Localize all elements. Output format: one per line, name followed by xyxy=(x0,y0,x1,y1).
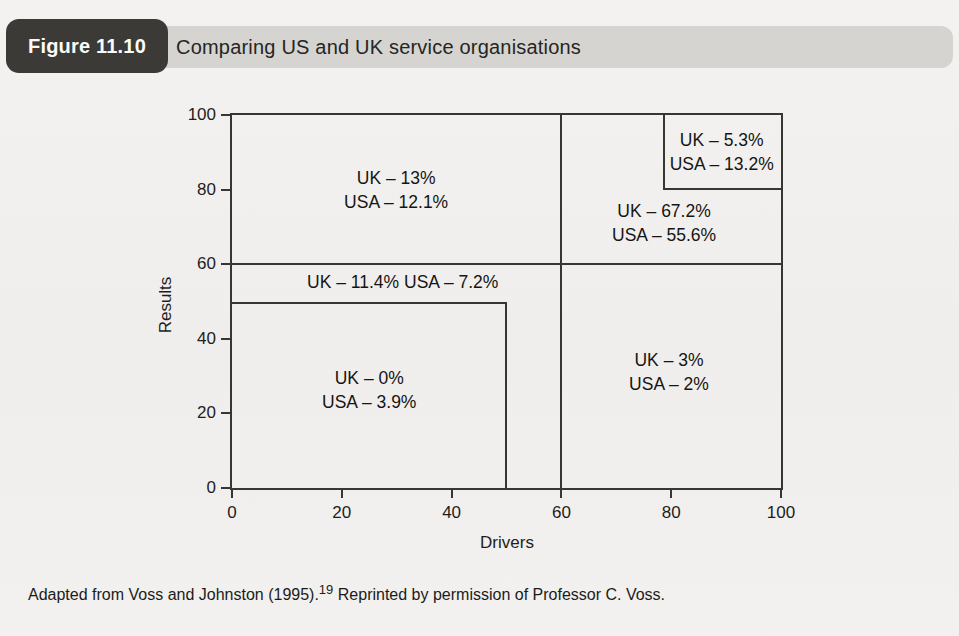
tick-label: 60 xyxy=(531,503,591,523)
region-uk-value: UK – 13% xyxy=(344,166,448,190)
tick-mark xyxy=(231,489,233,498)
figure-number-badge: Figure 11.10 xyxy=(6,19,168,73)
region-uk-value: UK – 5.3% xyxy=(670,128,774,152)
tick-label: 40 xyxy=(422,503,482,523)
boundary-line-drivers-60 xyxy=(560,115,562,488)
figure-number-label: Figure 11.10 xyxy=(28,35,146,58)
source-caption: Adapted from Voss and Johnston (1995).19… xyxy=(28,582,665,604)
tick-mark xyxy=(221,114,230,116)
tick-label: 100 xyxy=(188,105,216,125)
region-usa-value: USA – 12.1% xyxy=(344,190,448,214)
tick-label: 80 xyxy=(197,180,216,200)
tick-label: 100 xyxy=(751,503,811,523)
tick-mark xyxy=(221,338,230,340)
page-background: Comparing US and UK service organisation… xyxy=(0,0,959,636)
tick-label: 20 xyxy=(197,403,216,423)
region-usa-value: USA – 2% xyxy=(629,372,709,396)
tick-mark xyxy=(670,489,672,498)
tick-label: 60 xyxy=(197,254,216,274)
region-label-upper-left: UK – 13% USA – 12.1% xyxy=(344,166,448,214)
tick-mark xyxy=(780,489,782,498)
tick-mark xyxy=(451,489,453,498)
tick-label: 0 xyxy=(207,478,216,498)
region-usa-value: USA – 55.6% xyxy=(612,223,716,247)
caption-text-1: Adapted from Voss and Johnston (1995). xyxy=(28,586,319,603)
region-uk-usa-value: UK – 11.4% USA – 7.2% xyxy=(307,270,498,294)
region-label-left-strip: UK – 11.4% USA – 7.2% xyxy=(307,270,498,294)
x-axis-title: Drivers xyxy=(480,533,534,553)
y-axis-title: Results xyxy=(156,277,176,334)
region-label-top-right: UK – 5.3% USA – 13.2% xyxy=(670,128,774,176)
tick-mark xyxy=(221,412,230,414)
caption-footnote-ref: 19 xyxy=(319,582,333,597)
tick-label: 0 xyxy=(202,503,262,523)
tick-mark xyxy=(560,489,562,498)
tick-mark xyxy=(341,489,343,498)
region-usa-value: USA – 13.2% xyxy=(670,152,774,176)
region-uk-value: UK – 67.2% xyxy=(612,199,716,223)
region-label-mid-right: UK – 67.2% USA – 55.6% xyxy=(612,199,716,247)
region-label-lower-right: UK – 3% USA – 2% xyxy=(629,348,709,396)
tick-mark xyxy=(221,487,230,489)
tick-label: 80 xyxy=(641,503,701,523)
tick-label: 20 xyxy=(312,503,372,523)
caption-text-2: Reprinted by permission of Professor C. … xyxy=(333,586,665,603)
figure-title: Comparing US and UK service organisation… xyxy=(176,26,581,68)
region-uk-value: UK – 0% xyxy=(322,366,416,390)
tick-label: 40 xyxy=(197,329,216,349)
region-label-lower-left: UK – 0% USA – 3.9% xyxy=(322,366,416,414)
tick-mark xyxy=(221,263,230,265)
tick-mark xyxy=(221,189,230,191)
plot-area: UK – 13% USA – 12.1% UK – 11.4% USA – 7.… xyxy=(230,113,783,490)
region-usa-value: USA – 3.9% xyxy=(322,390,416,414)
region-uk-value: UK – 3% xyxy=(629,348,709,372)
boundary-line-results-60 xyxy=(232,263,781,265)
